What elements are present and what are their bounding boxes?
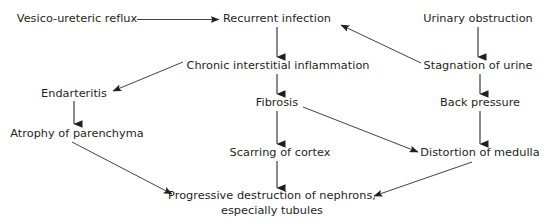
node-vesico-ureteric-reflux: Vesico-ureteric reflux (17, 12, 137, 26)
node-back-pressure: Back pressure (440, 96, 520, 110)
node-progressive-destruction-line2: especially tubules (168, 203, 376, 218)
node-atrophy-of-parenchyma: Atrophy of parenchyma (10, 127, 143, 141)
node-recurrent-infection: Recurrent infection (223, 12, 331, 26)
node-progressive-destruction: Progressive destruction of nephrons, esp… (168, 189, 376, 218)
node-stagnation-of-urine: Stagnation of urine (424, 59, 533, 73)
node-distortion-of-medulla: Distortion of medulla (420, 146, 539, 160)
node-progressive-destruction-line1: Progressive destruction of nephrons, (168, 189, 376, 204)
edge-distortion-to-progressive-destruction (374, 162, 472, 196)
edge-inflammation-to-endarteritis (113, 62, 183, 91)
node-chronic-interstitial-inflammation: Chronic interstitial inflammation (186, 59, 369, 73)
edge-fibrosis-to-distortion (303, 107, 418, 152)
edge-stagnation-to-infection (341, 25, 421, 63)
edge-atrophy-to-progressive-destruction (72, 142, 172, 194)
node-scarring-of-cortex: Scarring of cortex (230, 146, 331, 160)
node-endarteritis: Endarteritis (41, 87, 107, 101)
node-fibrosis: Fibrosis (256, 96, 298, 110)
flowchart-diagram: Vesico-ureteric reflux Recurrent infecti… (0, 0, 544, 223)
node-urinary-obstruction: Urinary obstruction (423, 12, 533, 26)
